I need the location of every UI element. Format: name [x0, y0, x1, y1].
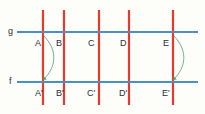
arrow-e-to-e-prime [174, 36, 184, 79]
point-label-B-prime: B' [56, 89, 64, 98]
parallel-lines-group [17, 32, 198, 82]
point-label-D-prime: D' [119, 89, 127, 98]
point-label-D: D [120, 39, 127, 48]
point-label-A-prime: A' [35, 89, 43, 98]
point-label-B: B [56, 39, 62, 48]
diagram-canvas [0, 0, 205, 114]
point-label-C: C [88, 39, 95, 48]
line-label-f: f [9, 77, 12, 86]
point-label-A: A [35, 39, 41, 48]
arrow-a-to-a-prime [44, 36, 54, 79]
point-label-E-prime: E' [162, 89, 170, 98]
line-label-g: g [8, 27, 13, 36]
point-label-C-prime: C' [87, 89, 95, 98]
point-label-E: E [163, 39, 169, 48]
geometry-diagram: gfABCDEA'B'C'D'E' [0, 0, 205, 114]
